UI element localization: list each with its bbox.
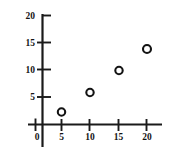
x-tick-label-0: 0 [35, 132, 40, 142]
y-tick-label-15: 15 [26, 38, 36, 48]
x-tick-label-5: 5 [59, 132, 64, 142]
x-tick-label-20: 20 [142, 132, 152, 142]
x-tick-label-10: 10 [85, 132, 95, 142]
y-tick-label-5: 5 [30, 92, 35, 102]
data-point-1 [58, 108, 65, 115]
y-tick-label-20: 20 [26, 11, 36, 21]
x-tick-label-15: 15 [114, 132, 124, 142]
data-point-3 [115, 67, 122, 74]
data-point-4 [143, 45, 151, 53]
y-tick-label-10: 10 [26, 65, 36, 75]
chart-canvas: 20 15 10 5 0 5 10 15 20 [0, 0, 172, 160]
scatter-plot-figure: 20 15 10 5 0 5 10 15 20 [0, 0, 172, 160]
data-point-2 [86, 89, 93, 96]
